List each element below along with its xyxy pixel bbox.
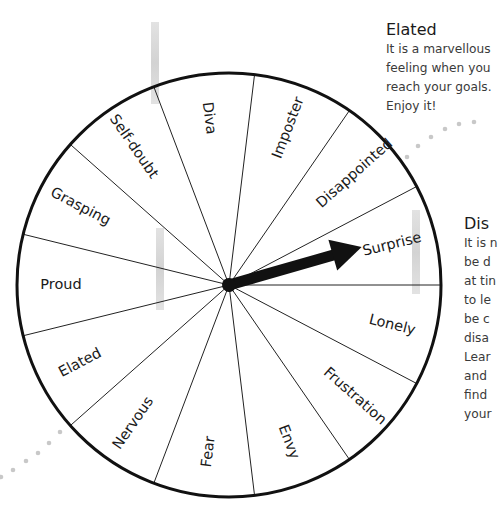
segment-label-nervous: Nervous [109, 393, 156, 451]
segment-label-grasping: Grasping [48, 184, 113, 228]
segment-label-proud: Proud [40, 276, 81, 292]
segment-label-fear: Fear [198, 435, 218, 468]
dotted-connector-top [405, 120, 477, 160]
segment-label-diva: Diva [200, 101, 220, 135]
card-disappointed-title: Dis [464, 214, 502, 234]
card-elated-title: Elated [386, 20, 496, 40]
segment-label-envy: Envy [276, 422, 304, 461]
wheel-spoke [229, 285, 417, 384]
wheel-spoke [154, 285, 229, 483]
card-elated-body: It is a marvellous feeling when you reac… [386, 40, 496, 116]
dotted-connector-bottom [0, 430, 62, 480]
card-elated: Elated It is a marvellous feeling when y… [386, 20, 496, 116]
segment-label-frustration: Frustration [321, 364, 390, 428]
pointer-arrow[interactable] [218, 232, 366, 303]
wheel-spoke [23, 285, 229, 336]
segment-label-self-doubt: Self-doubt [107, 111, 162, 181]
segment-label-lonely: Lonely [367, 311, 417, 338]
segment-label-imposter: Imposter [269, 94, 307, 160]
segment-label-elated: Elated [56, 344, 104, 379]
card-disappointed-body: It is n be d at tin to le be c disa Lear… [464, 234, 502, 424]
segment-label-surprise: Surprise [361, 229, 423, 259]
card-disappointed: Dis It is n be d at tin to le be c disa … [464, 214, 502, 424]
